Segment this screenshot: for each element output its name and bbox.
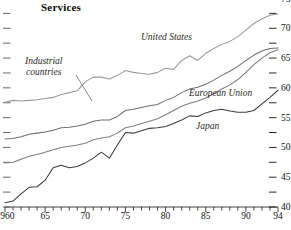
series-label-industrial-countries-line2: countries xyxy=(25,67,62,78)
x-axis-label: 75 xyxy=(121,211,131,221)
y-axis-label: 65 xyxy=(281,53,291,63)
y-axis-label: 60 xyxy=(281,83,291,93)
x-axis-label: 65 xyxy=(40,211,50,221)
x-axis-label: 1960 xyxy=(0,211,15,221)
x-axis-label: 85 xyxy=(201,211,211,221)
y-axis-label: 70 xyxy=(281,23,291,33)
x-axis-label: 80 xyxy=(161,211,171,221)
services-line-chart: Services Industrial countries United Sta… xyxy=(0,0,291,230)
y-axis-label: 55 xyxy=(281,113,291,123)
y-axis-label: 50 xyxy=(281,142,291,152)
y-axis-label: 75 xyxy=(281,0,291,4)
series-label-industrial-countries-line1: Industrial xyxy=(25,56,62,67)
x-axis-label: 94 xyxy=(273,211,283,221)
series-label-industrial-countries: Industrial countries xyxy=(25,56,62,77)
x-axis-label: 70 xyxy=(81,211,91,221)
y-axis-label: 45 xyxy=(281,172,291,182)
series-label-japan: Japan xyxy=(196,121,219,132)
x-axis-label: 90 xyxy=(241,211,251,221)
series-label-european-union: European Union xyxy=(189,88,252,99)
series-label-united-states: United States xyxy=(141,32,192,43)
